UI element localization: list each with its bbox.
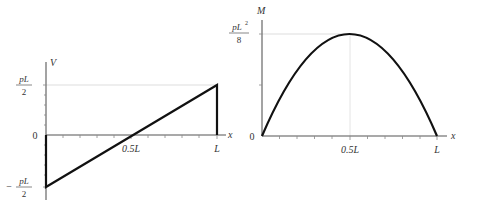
moment-y-axis-label: M — [256, 5, 266, 16]
svg-text:2: 2 — [22, 87, 27, 97]
moment-x-end-label: L — [433, 144, 440, 155]
moment-x-axis-label: x — [450, 130, 456, 141]
moment-x-mid-label: 0.5L — [341, 144, 360, 155]
svg-text:pL: pL — [18, 74, 29, 84]
shear-y-top-label: pL 2 — [16, 74, 32, 97]
shear-y-bottom-label: − pL 2 — [6, 176, 32, 199]
diagram-canvas: V x pL 2 0 − pL 2 0.5L L — [0, 0, 478, 208]
svg-text:2: 2 — [245, 20, 248, 26]
svg-text:pL: pL — [18, 176, 29, 186]
shear-diagram: V x pL 2 0 − pL 2 0.5L L — [6, 57, 233, 200]
shear-x-mid-label: 0.5L — [122, 143, 141, 154]
svg-text:8: 8 — [237, 35, 242, 45]
moment-x-ticks — [280, 136, 438, 140]
svg-text:−: − — [6, 181, 12, 192]
shear-y-axis-label: V — [50, 57, 58, 68]
moment-diagram: M x pL 2 8 0 0.5L L — [229, 5, 456, 155]
shear-x-ticks — [63, 135, 217, 139]
shear-y-zero-label: 0 — [33, 130, 38, 141]
moment-y-top-label: pL 2 8 — [229, 20, 249, 45]
shear-curve — [46, 85, 217, 187]
shear-x-axis-label: x — [227, 129, 233, 140]
shear-x-end-label: L — [213, 143, 220, 154]
svg-text:pL: pL — [231, 22, 242, 32]
moment-y-zero-label: 0 — [250, 131, 255, 142]
svg-text:2: 2 — [22, 189, 27, 199]
